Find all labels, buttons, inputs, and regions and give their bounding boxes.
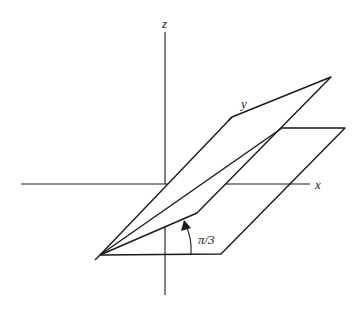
y-axis-label: y: [239, 96, 247, 111]
horizontal-plane: [100, 128, 345, 255]
z-axis-label: z: [161, 16, 167, 31]
diagram: z y x π/3: [0, 0, 364, 309]
x-axis-label: x: [314, 177, 321, 192]
tilted-plane: [100, 77, 331, 255]
vertex-extension: [95, 255, 100, 260]
angle-arrowhead: [181, 220, 191, 231]
y-axis-tip: [228, 117, 232, 121]
angle-arc: [186, 226, 191, 254]
diagram-canvas: z y x π/3: [0, 0, 364, 309]
angle-label: π/3: [198, 232, 215, 247]
